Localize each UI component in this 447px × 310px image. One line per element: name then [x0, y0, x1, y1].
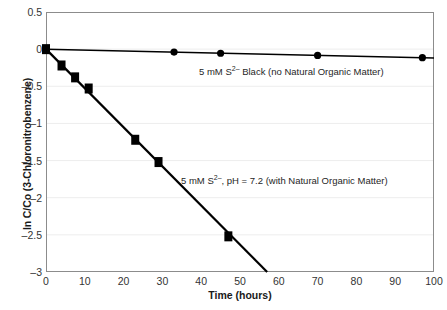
- y-tick-label: –1.5: [2, 156, 42, 167]
- y-tick-label: –1: [2, 118, 42, 129]
- annotation-with-nom: 5 mM S2–, pH = 7.2 (with Natural Organic…: [181, 175, 388, 186]
- x-tick-label: 10: [65, 276, 105, 287]
- y-axis-tick-labels: 0.50–0.5–1–1.5–2–2.5–3: [0, 0, 42, 310]
- annotation-with-nom-prefix: 5 mM S: [181, 175, 214, 186]
- data-point: [42, 44, 50, 54]
- data-point: [217, 50, 224, 57]
- y-tick-label: –0.5: [2, 81, 42, 92]
- x-tick-label: 0: [26, 276, 66, 287]
- x-tick-label: 20: [104, 276, 144, 287]
- series-0: [42, 46, 434, 62]
- axis-frame: [47, 13, 434, 272]
- data-point: [224, 231, 232, 241]
- annotation-no-nom-prefix: 5 mM S: [199, 66, 232, 77]
- data-point: [131, 135, 139, 145]
- data-point: [155, 157, 163, 167]
- x-axis-title: Time (hours): [46, 289, 434, 301]
- y-tick-label: 0.5: [2, 7, 42, 18]
- x-tick-label: 90: [375, 276, 415, 287]
- data-point: [71, 72, 79, 82]
- annotation-no-nom-superscript: 2–: [232, 65, 240, 72]
- data-series: [42, 44, 434, 272]
- data-point: [85, 84, 93, 94]
- y-tick-label: –2: [2, 193, 42, 204]
- x-tick-label: 70: [298, 276, 338, 287]
- x-tick-label: 50: [220, 276, 260, 287]
- x-tick-label: 40: [181, 276, 221, 287]
- x-tick-label: 100: [414, 276, 447, 287]
- data-point: [170, 49, 177, 56]
- annotation-with-nom-suffix: , pH = 7.2 (with Natural Organic Matter): [222, 175, 388, 186]
- plot-area: [0, 0, 447, 310]
- x-tick-label: 80: [336, 276, 376, 287]
- annotation-no-nom: 5 mM S2– Black (no Natural Organic Matte…: [199, 66, 384, 77]
- y-tick-label: 0: [2, 44, 42, 55]
- y-tick-label: –2.5: [2, 230, 42, 241]
- series-1: [42, 44, 267, 272]
- data-point: [419, 54, 426, 61]
- data-point: [314, 52, 321, 59]
- chart-figure: ln C/Co (3-Chloronitrobenzene) 0.50–0.5–…: [0, 0, 447, 310]
- trend-line: [46, 49, 434, 58]
- annotation-with-nom-superscript: 2–: [214, 174, 222, 181]
- x-tick-label: 30: [142, 276, 182, 287]
- annotation-no-nom-suffix: Black (no Natural Organic Matter): [240, 66, 384, 77]
- x-tick-label: 60: [259, 276, 299, 287]
- plot-border: [47, 13, 434, 272]
- data-point: [58, 60, 66, 70]
